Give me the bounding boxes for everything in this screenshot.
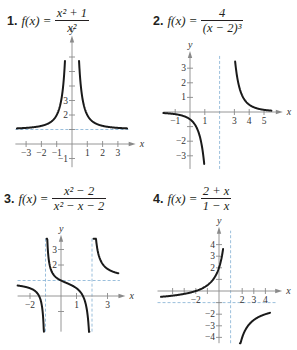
x-tick-label: 3 <box>116 148 121 158</box>
y-tick-label: 2 <box>210 263 215 273</box>
x-axis-arrow-icon <box>275 289 282 293</box>
graph-2: xy−11345−3−2123 <box>163 39 291 169</box>
x-axis-label: x <box>128 290 134 301</box>
y-axis-arrow-icon <box>70 36 74 43</box>
y-axis-arrow-icon <box>217 227 221 234</box>
x-tick-label: 5 <box>262 116 267 126</box>
y-tick-label: −2 <box>205 309 215 319</box>
function-curve <box>235 62 271 111</box>
y-tick-label: 3 <box>210 251 215 261</box>
y-axis-arrow-icon <box>59 235 63 242</box>
x-tick-label: 4 <box>247 116 252 126</box>
x-axis-arrow-icon <box>276 110 283 114</box>
graph-1: xy−3−2−1123−123 <box>15 24 144 168</box>
y-tick-label: −4 <box>205 332 215 342</box>
y-tick-label: 3 <box>181 63 186 73</box>
y-tick-label: −1 <box>58 154 68 164</box>
x-tick-label: 1 <box>74 300 79 310</box>
x-tick-label: 2 <box>240 295 245 305</box>
y-tick-label: −3 <box>205 321 215 331</box>
y-axis-label: y <box>187 39 193 50</box>
y-tick-label: 3 <box>52 245 57 255</box>
y-axis-label: y <box>216 215 222 226</box>
y-tick-label: −2 <box>176 136 186 146</box>
x-tick-label: 1 <box>85 148 90 158</box>
y-tick-label: 2 <box>181 78 186 88</box>
y-tick-label: −3 <box>176 151 186 161</box>
x-tick-label: 1 <box>202 116 207 126</box>
graphs-canvas: xy−3−2−1123−123xy−11345−3−2123xy−21323xy… <box>0 0 297 350</box>
x-tick-label: −3 <box>21 148 31 158</box>
function-curve <box>17 61 65 128</box>
x-tick-label: −2 <box>36 148 46 158</box>
x-tick-label: 2 <box>100 148 105 158</box>
y-tick-label: 2 <box>52 260 57 270</box>
x-tick-label: 3 <box>105 300 110 310</box>
x-axis-arrow-icon <box>129 142 136 146</box>
y-axis-label: y <box>58 223 64 234</box>
function-curve <box>79 61 127 128</box>
function-curve <box>240 313 270 343</box>
y-tick-label: 3 <box>63 96 68 106</box>
y-axis-arrow-icon <box>188 51 192 58</box>
x-tick-label: −1 <box>170 116 180 126</box>
x-tick-label: 4 <box>263 295 268 305</box>
x-tick-label: 3 <box>251 295 256 305</box>
function-curve <box>94 239 119 274</box>
x-tick-label: 3 <box>232 116 237 126</box>
y-tick-label: 1 <box>181 92 186 102</box>
y-tick-label: 4 <box>210 240 215 250</box>
graph-4: xy−2234−4−3−2234 <box>158 215 292 344</box>
x-axis-label: x <box>139 138 145 149</box>
y-axis-label: y <box>69 24 75 35</box>
x-axis-label: x <box>285 285 291 296</box>
x-axis-arrow-icon <box>118 294 125 298</box>
graph-3: xy−21323 <box>18 223 135 332</box>
x-tick-label: −2 <box>25 300 35 310</box>
x-tick-label: −2 <box>191 295 201 305</box>
y-tick-label: 2 <box>63 110 68 120</box>
x-axis-label: x <box>286 106 292 117</box>
